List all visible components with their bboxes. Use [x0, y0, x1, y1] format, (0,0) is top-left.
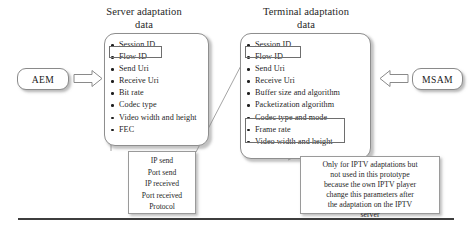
- terminal-adaptation-item: Video width and height: [241, 136, 370, 148]
- terminal-adaptation-item: Packetization algorithm: [241, 99, 370, 111]
- server-adaptation-item-label: Send Uri: [119, 64, 149, 73]
- server-adaptation-item-list: Session IDFlow IDSend UriReceive UriBit …: [105, 34, 208, 136]
- fec-note-line: Protocol: [129, 201, 195, 213]
- terminal-adaptation-item-label: Frame rate: [255, 125, 291, 134]
- server-adaptation-item: Flow ID: [105, 51, 208, 63]
- server-adaptation-item: Codec type: [105, 99, 208, 111]
- server-adaptation-item: Receive Uri: [105, 75, 208, 87]
- terminal-adaptation-item-label: Receive Uri: [255, 76, 295, 85]
- iptv-note-line: Only for IPTV adaptations but: [305, 160, 435, 170]
- server-adaptation-item: Session ID: [105, 39, 208, 51]
- arrow-aem-to-server: [74, 71, 102, 87]
- adaptation-data-diagram: Server adaptation data Terminal adaptati…: [0, 0, 470, 228]
- terminal-adaptation-item-label: Video width and height: [255, 137, 333, 146]
- server-caption-line1: Server adaptation: [106, 6, 181, 17]
- fec-note-line: IP send: [129, 155, 195, 167]
- server-adaptation-item-label: FEC: [119, 125, 134, 134]
- terminal-caption-line1: Terminal adaptation: [263, 6, 349, 17]
- figure-bottom-rule: [18, 218, 454, 220]
- fec-detail-note: IP sendPort sendIP receivedPort received…: [128, 151, 196, 214]
- terminal-adaptation-data-panel: Session IDFlow IDSend UriReceive UriBuff…: [240, 33, 371, 159]
- server-adaptation-item: Bit rate: [105, 87, 208, 99]
- arrow-terminal-to-msam: [380, 71, 408, 87]
- terminal-caption-line2: data: [297, 19, 315, 30]
- terminal-adaptation-item-label: Buffer size and algorithm: [255, 88, 340, 97]
- server-adaptation-item-label: Bit rate: [119, 88, 144, 97]
- aem-node: AEM: [17, 68, 69, 90]
- server-adaptation-item: FEC: [105, 124, 208, 136]
- terminal-adaptation-item-label: Send Uri: [255, 64, 285, 73]
- server-adaptation-item-label: Video width and height: [119, 113, 197, 122]
- fec-note-line: Port send: [129, 167, 195, 179]
- server-adaptation-item: Video width and height: [105, 112, 208, 124]
- terminal-adaptation-item: Receive Uri: [241, 75, 370, 87]
- server-adaptation-item-label: Session ID: [119, 40, 155, 49]
- msam-node: MSAM: [412, 68, 463, 90]
- terminal-adaptation-item: Flow ID: [241, 51, 370, 63]
- terminal-adaptation-item-label: Flow ID: [255, 52, 283, 61]
- fec-note-line: Port received: [129, 190, 195, 202]
- terminal-adaptation-item: Send Uri: [241, 63, 370, 75]
- server-adaptation-item-label: Receive Uri: [119, 76, 159, 85]
- terminal-adaptation-item: Session ID: [241, 39, 370, 51]
- terminal-adaptation-item-list: Session IDFlow IDSend UriReceive UriBuff…: [241, 34, 370, 148]
- server-adaptation-item: Send Uri: [105, 63, 208, 75]
- server-panel-caption: Server adaptation data: [86, 6, 202, 31]
- server-adaptation-data-panel: Session IDFlow IDSend UriReceive UriBit …: [104, 33, 209, 146]
- iptv-adaptation-note: Only for IPTV adaptations butnot used in…: [300, 156, 440, 214]
- msam-label: MSAM: [422, 74, 453, 85]
- server-adaptation-item-label: Codec type: [119, 100, 157, 109]
- fec-note-line: IP received: [129, 178, 195, 190]
- terminal-adaptation-item-label: Packetization algorithm: [255, 100, 334, 109]
- terminal-adaptation-item-label: Session ID: [255, 40, 291, 49]
- iptv-note-line: because the own IPTV player: [305, 180, 435, 190]
- iptv-note-line: not used in this prototype: [305, 170, 435, 180]
- server-caption-line2: data: [135, 19, 153, 30]
- terminal-adaptation-item: Frame rate: [241, 124, 370, 136]
- terminal-adaptation-item-label: Codec type and mode: [255, 113, 327, 122]
- terminal-adaptation-item: Codec type and mode: [241, 112, 370, 124]
- aem-label: AEM: [32, 74, 55, 85]
- iptv-note-line: the adaptation on the IPTV: [305, 200, 435, 210]
- terminal-panel-caption: Terminal adaptation data: [243, 6, 369, 31]
- iptv-note-line: change this parameters after: [305, 190, 435, 200]
- terminal-adaptation-item: Buffer size and algorithm: [241, 87, 370, 99]
- server-adaptation-item-label: Flow ID: [119, 52, 147, 61]
